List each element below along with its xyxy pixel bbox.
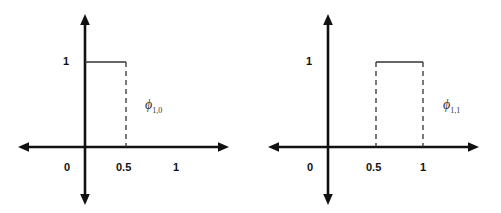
y-tick-label-one-left: 1 — [63, 56, 69, 67]
x-axis-right-arrow-icon-right — [468, 142, 479, 152]
figure-canvas: 1 0 0.5 1 ϕ1,0 1 0 0.5 1 — [0, 0, 501, 213]
y-axis-up-arrow-icon — [80, 14, 90, 25]
x-axis-left-arrow-icon — [18, 142, 29, 152]
function-label-phi-1-0: ϕ1,0 — [145, 98, 162, 115]
plot-panel-phi-1-0: 1 0 0.5 1 ϕ1,0 — [0, 0, 250, 213]
y-axis-down-arrow-icon — [80, 194, 90, 205]
x-axis-right-arrow-icon — [218, 142, 229, 152]
phi-subscript-right: 1,1 — [450, 106, 460, 115]
x-tick-label-half-right: 0.5 — [366, 162, 381, 173]
x-tick-label-zero-right: 0 — [307, 162, 313, 173]
plot-svg-left — [0, 0, 250, 213]
x-tick-label-zero-left: 0 — [64, 162, 70, 173]
x-tick-label-half-left: 0.5 — [116, 162, 131, 173]
y-axis-down-arrow-icon-right — [323, 194, 333, 205]
x-tick-label-one-right: 1 — [420, 162, 426, 173]
x-axis-left-arrow-icon-right — [268, 142, 279, 152]
y-axis-up-arrow-icon-right — [323, 14, 333, 25]
phi-subscript-left: 1,0 — [152, 106, 162, 115]
function-label-phi-1-1: ϕ1,1 — [443, 98, 460, 115]
x-tick-label-one-left: 1 — [173, 162, 179, 173]
plot-panel-phi-1-1: 1 0 0.5 1 ϕ1,1 — [251, 0, 501, 213]
y-tick-label-one-right: 1 — [306, 56, 312, 67]
plot-svg-right — [251, 0, 501, 213]
